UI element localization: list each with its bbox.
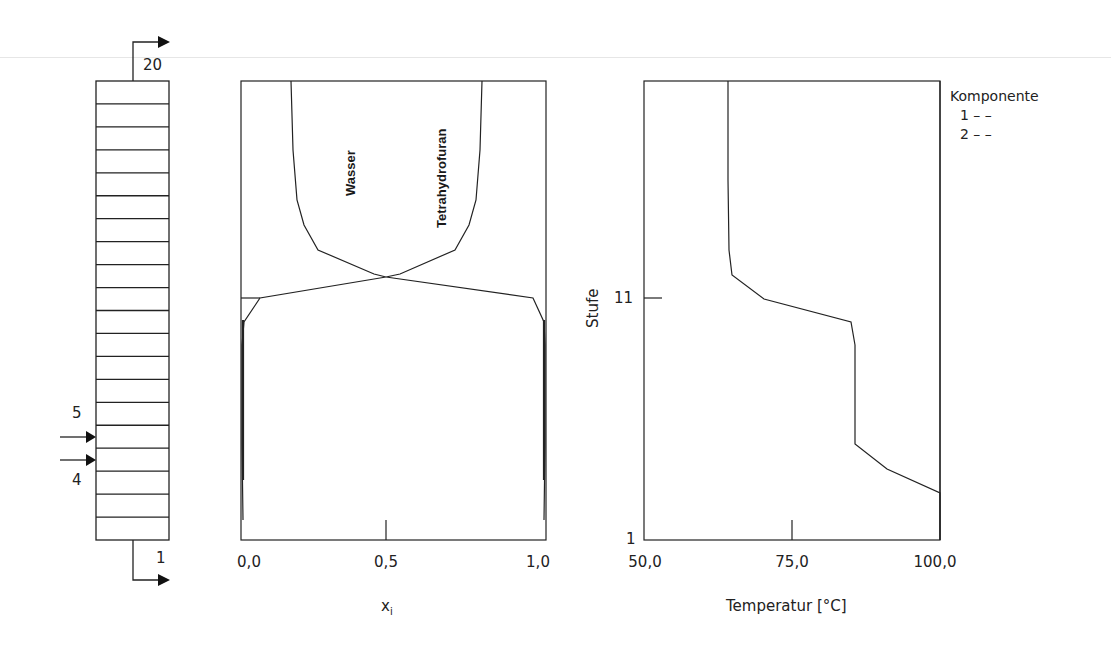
- label-thf: Tetrahydrofuran: [434, 129, 449, 228]
- y-axis-label-stufe: Stufe: [584, 289, 602, 328]
- x-tick-label-1: 1,0: [526, 553, 550, 571]
- feed-upper-arrow-icon: [86, 431, 96, 443]
- legend-entry-2: 2 – –: [960, 126, 992, 142]
- column-diagram: [60, 36, 170, 586]
- composition-plot: [241, 81, 546, 540]
- x-tick-label-100: 100,0: [914, 553, 957, 571]
- x-tick-label-0: 0,0: [237, 553, 261, 571]
- y-tick-label-1: 1: [626, 530, 636, 548]
- legend-entry-1: 1 – –: [960, 107, 992, 123]
- column-bottom-stage-label: 1: [156, 549, 166, 567]
- legend-title: Komponente: [950, 88, 1039, 104]
- temperature-plot-frame: [644, 81, 940, 540]
- top-outlet-arrow-icon: [158, 36, 170, 48]
- x-axis-label-sub: i: [390, 606, 393, 617]
- feed-stage-label-lower: 4: [72, 471, 82, 489]
- curve-thf: [386, 81, 545, 520]
- y-tick-label-11: 11: [614, 289, 633, 307]
- bottom-outlet-arrow-icon: [158, 574, 170, 586]
- x-tick-label-05: 0,5: [374, 553, 398, 571]
- composition-plot-frame: [241, 81, 546, 540]
- curve-wasser: [242, 81, 386, 520]
- column-top-stage-label: 20: [143, 56, 162, 74]
- x-tick-label-75: 75,0: [775, 553, 808, 571]
- x-axis-label-temperatur: Temperatur [°C]: [726, 597, 847, 615]
- x-tick-label-50: 50,0: [628, 553, 661, 571]
- column-stage-dividers: [96, 104, 169, 517]
- temperature-plot: [644, 81, 940, 540]
- x-axis-label-main: x: [381, 597, 390, 615]
- label-wasser: Wasser: [343, 150, 358, 196]
- feed-lower-arrow-icon: [86, 454, 96, 466]
- curve-temperature: [728, 81, 940, 540]
- feed-stage-label-upper: 5: [72, 404, 82, 422]
- x-axis-label-xi: xi: [381, 597, 393, 617]
